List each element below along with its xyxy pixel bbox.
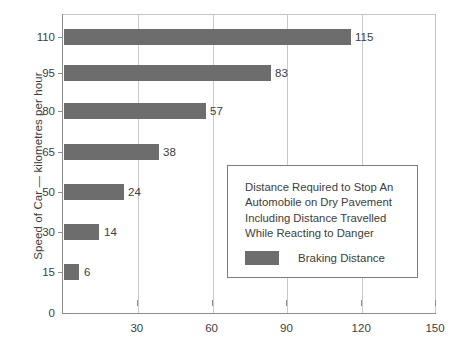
x-tick-mark-60 — [212, 300, 213, 306]
x-tick-label-30: 30 — [130, 322, 143, 334]
y-tick-mark-30 — [58, 232, 63, 233]
legend-description: Distance Required to Stop An Automobile … — [245, 180, 411, 242]
bar-value-50: 24 — [128, 186, 141, 198]
x-tick-label-150: 150 — [425, 322, 444, 334]
legend-description-line-3: Including Distance Travelled — [245, 211, 411, 226]
bar-30 — [64, 224, 99, 240]
y-tick-mark-110 — [58, 37, 63, 38]
x-tick-label-60: 60 — [205, 322, 218, 334]
y-tick-mark-95 — [58, 73, 63, 74]
bar-value-15: 6 — [84, 266, 90, 278]
y-tick-label-30: 30 — [0, 226, 55, 238]
y-tick-mark-65 — [58, 152, 63, 153]
y-tick-mark-50 — [58, 192, 63, 193]
x-tick-label-90: 90 — [280, 322, 293, 334]
legend-description-line-1: Distance Required to Stop An — [245, 180, 411, 195]
gridline-60 — [213, 14, 214, 313]
y-tick-mark-80 — [58, 111, 63, 112]
legend-entry-label: Braking Distance — [298, 252, 385, 264]
bar-110 — [64, 29, 351, 45]
chart-legend: Distance Required to Stop An Automobile … — [227, 165, 418, 278]
x-tick-mark-120 — [361, 300, 362, 306]
braking-distance-bar-chart: Speed of Car — kilometres per hour 110 9… — [0, 0, 451, 348]
y-tick-label-50: 50 — [0, 186, 55, 198]
x-tick-mark-150 — [435, 300, 436, 306]
y-tick-mark-15 — [58, 272, 63, 273]
bar-15 — [64, 264, 79, 280]
y-tick-label-65: 65 — [0, 146, 55, 158]
bar-95 — [64, 65, 271, 81]
plot-top-edge — [63, 14, 436, 15]
bar-value-110: 115 — [355, 31, 373, 43]
y-tick-label-110: 110 — [0, 31, 55, 43]
gridline-30 — [138, 14, 139, 313]
legend-description-line-4: While Reacting to Danger — [245, 226, 411, 241]
bar-65 — [64, 144, 159, 160]
legend-swatch-icon — [245, 251, 279, 265]
x-tick-mark-30 — [137, 300, 138, 306]
plot-right-edge — [435, 14, 436, 313]
legend-description-line-2: Automobile on Dry Pavement — [245, 195, 411, 210]
y-tick-label-0: 0 — [0, 307, 55, 319]
y-tick-label-80: 80 — [0, 105, 55, 117]
bar-value-95: 83 — [275, 67, 288, 79]
bar-value-30: 14 — [104, 226, 117, 238]
y-tick-label-95: 95 — [0, 67, 55, 79]
y-tick-label-15: 15 — [0, 266, 55, 278]
plot-area: 115 83 57 38 24 14 6 Distance Required t… — [62, 14, 436, 314]
x-tick-label-120: 120 — [352, 322, 371, 334]
bar-value-65: 38 — [163, 146, 176, 158]
legend-entry-braking-distance: Braking Distance — [245, 251, 385, 265]
bar-50 — [64, 184, 124, 200]
x-tick-mark-90 — [286, 300, 287, 306]
bar-value-80: 57 — [210, 105, 223, 117]
bar-80 — [64, 103, 206, 119]
